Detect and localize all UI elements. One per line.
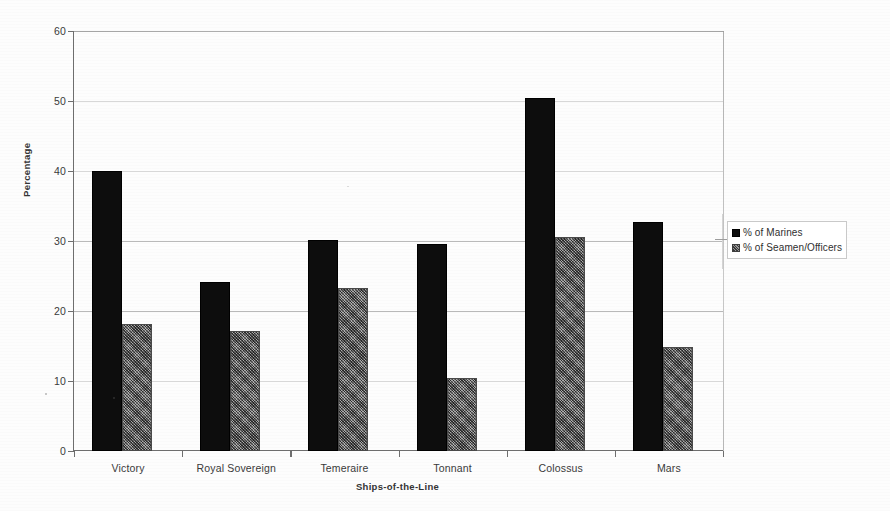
bar-temeraire-seamen xyxy=(338,288,368,451)
y-tick-label-40: 40 xyxy=(40,165,66,177)
legend: % of Marines % of Seamen/Officers xyxy=(727,221,847,259)
x-axis-label-mars: Mars xyxy=(615,462,723,474)
bar-colossus-marines xyxy=(525,98,555,451)
legend-item-seamen: % of Seamen/Officers xyxy=(732,240,844,255)
x-tick-mark xyxy=(74,451,75,457)
y-tick-label-20: 20 xyxy=(40,305,66,317)
gray-square-icon xyxy=(732,244,740,252)
y-tick-label-0: 0 xyxy=(40,445,66,457)
bar-victory-seamen xyxy=(122,324,152,451)
x-axis-title-text: Ships-of-the-Line xyxy=(356,481,439,492)
scan-speck xyxy=(113,397,115,399)
y-tick-label-10: 10 xyxy=(40,375,66,387)
scan-speck xyxy=(347,186,349,187)
x-axis-label-victory: Victory xyxy=(74,462,182,474)
x-axis-label-colossus: Colossus xyxy=(507,462,615,474)
bar-royal-sovereign-seamen xyxy=(230,331,260,451)
bar-mars-marines xyxy=(633,222,663,451)
scan-speck xyxy=(45,393,47,395)
y-tick-label-30: 30 xyxy=(40,235,66,247)
legend-edge-artifact xyxy=(722,214,723,269)
x-tick-mark xyxy=(723,451,724,457)
x-tick-mark xyxy=(290,451,291,457)
x-tick-mark xyxy=(615,451,616,457)
legend-label-marines: % of Marines xyxy=(743,227,803,238)
y-axis-title: Percentage xyxy=(21,107,32,197)
x-axis-label-tonnant: Tonnant xyxy=(399,462,507,474)
bar-mars-seamen xyxy=(663,347,693,451)
x-axis-label-temeraire: Temeraire xyxy=(290,462,398,474)
bar-royal-sovereign-marines xyxy=(200,282,230,451)
bar-victory-marines xyxy=(92,171,122,451)
plot-frame-right xyxy=(723,31,724,452)
bar-chart: 60 50 40 30 20 10 0 Percentage VictoryRo… xyxy=(0,0,890,511)
bars-layer xyxy=(74,31,723,451)
x-axis-title: Ships-of-the-Line xyxy=(0,481,890,492)
x-axis-label-royal-sovereign: Royal Sovereign xyxy=(182,462,290,474)
y-tick-label-50: 50 xyxy=(40,95,66,107)
x-tick-mark xyxy=(182,451,183,457)
bar-colossus-seamen xyxy=(555,237,585,451)
x-tick-mark xyxy=(507,451,508,457)
y-tick-label-60: 60 xyxy=(40,25,66,37)
bar-temeraire-marines xyxy=(308,240,338,451)
legend-item-marines: % of Marines xyxy=(732,225,844,240)
legend-tick-stub xyxy=(715,239,727,240)
bar-tonnant-seamen xyxy=(447,378,477,452)
bar-tonnant-marines xyxy=(417,244,447,451)
x-tick-mark xyxy=(399,451,400,457)
legend-label-seamen: % of Seamen/Officers xyxy=(743,242,842,253)
black-square-icon xyxy=(732,229,740,237)
